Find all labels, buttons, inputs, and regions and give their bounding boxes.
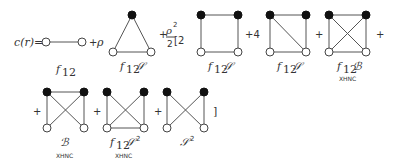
diagram-square-diagonal [266,11,310,56]
filled-node-icon [325,11,333,19]
xhnc-label: XHNC [339,75,356,82]
filled-node-icon [140,88,148,96]
svg-text:12: 12 [62,66,76,79]
plus-sign: + [315,29,323,40]
plus-sign: + [376,29,384,40]
open-node-icon [109,48,117,56]
filled-node-icon [197,11,205,19]
open-node-icon [103,124,111,132]
open-node-icon [234,48,242,56]
filled-node-icon [266,11,274,19]
label-f12B: f 12 ℬ [336,60,363,76]
filled-node-icon [200,88,208,96]
open-node-icon [197,48,205,56]
plus-four: +4 [245,29,260,40]
diagram-square [197,11,242,56]
svg-text:f: f [276,60,283,73]
filled-node-icon [128,11,136,19]
xhnc-label: XHNC [115,152,132,159]
diagram-complete-square [325,11,370,56]
closing-bracket: ] [213,105,217,118]
xhnc-label: XHNC [56,152,73,159]
lhs-text: c(r)= [14,36,43,49]
diagram-S2 [163,88,208,132]
label-f12S-2: f 12 𝒮 [207,60,236,76]
svg-text:ℬ: ℬ [353,60,363,73]
open-node-icon [302,48,310,56]
label-B: ℬ [60,136,70,149]
svg-text:𝒮: 𝒮 [293,60,305,73]
open-node-icon [78,38,86,46]
open-node-icon [163,124,171,132]
label-f12S2: f 12 𝒮 2 [109,135,140,152]
filled-node-icon [163,88,171,96]
svg-text:f: f [109,136,116,149]
svg-text:𝒮: 𝒮 [136,60,148,73]
open-node-icon [266,48,274,56]
plus-sign: + [93,106,101,117]
open-node-icon [362,48,370,56]
svg-text:2: 2 [136,135,140,143]
filled-node-icon [80,88,88,96]
filled-node-icon [362,11,370,19]
filled-node-icon [234,11,242,19]
rho-sq-numerator: ρ [165,25,172,36]
open-node-icon [147,48,155,56]
open-node-icon [42,38,50,46]
open-node-icon [43,124,51,132]
plus-sign: + [154,106,162,117]
open-node-icon [325,48,333,56]
label-f12: f 12 [55,63,76,79]
open-node-icon [80,124,88,132]
open-node-icon [200,124,208,132]
svg-text:𝒮: 𝒮 [224,60,236,73]
filled-node-icon [103,88,111,96]
diagram-bridge [43,88,88,132]
label-f12S-3: f 12 𝒮 [276,60,305,76]
exponent-2: 2 [173,21,177,29]
open-node-icon [140,124,148,132]
svg-text:f: f [336,60,343,73]
svg-text:2: 2 [190,135,194,143]
cluster-expansion-diagram: c(r)= + ρ f 12 f 12 𝒮 + ρ 2 2 [2 [0,0,395,164]
diagram-f12 [42,38,86,46]
filled-node-icon [302,11,310,19]
label-f12S-1: f 12 𝒮 [119,60,148,76]
diagram-f12S2 [103,88,148,132]
plus-sign: + [33,106,41,117]
svg-text:f: f [55,63,62,76]
svg-text:f: f [119,60,126,73]
bracket-two: [2 [174,35,184,46]
half-denominator: 2 [167,39,173,49]
rho-symbol: ρ [96,36,104,49]
svg-text:f: f [207,60,214,73]
diagram-triangle [109,11,155,56]
filled-node-icon [43,88,51,96]
label-S2: 𝒮 2 [180,135,194,149]
